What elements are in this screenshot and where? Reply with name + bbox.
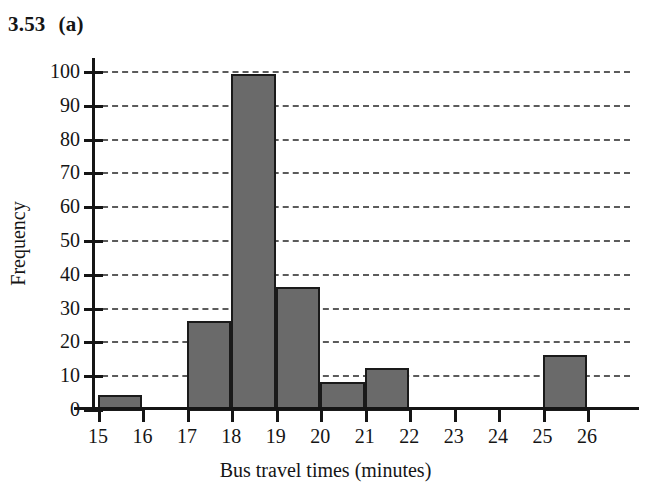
y-axis-tick: [84, 375, 103, 378]
gridline: [92, 240, 630, 242]
y-axis-tick: [84, 308, 103, 311]
histogram-bar: [543, 355, 587, 411]
y-axis-tick: [84, 105, 103, 108]
y-axis-line: [92, 58, 95, 411]
x-axis-tick: [365, 409, 368, 422]
x-axis-tick: [498, 409, 501, 422]
gridline: [92, 139, 630, 141]
gridline: [92, 71, 630, 73]
y-axis-tick-label: 100: [36, 61, 80, 81]
gridline: [92, 105, 630, 107]
x-axis-tick: [187, 409, 190, 422]
gridline: [92, 206, 630, 208]
y-axis-tick-label: 30: [36, 298, 80, 318]
gridline: [92, 274, 630, 276]
y-axis-tick: [84, 71, 103, 74]
histogram-bar: [365, 368, 409, 411]
x-axis-tick: [454, 409, 457, 422]
y-axis-tick: [84, 240, 103, 243]
x-axis-tick: [587, 409, 590, 422]
y-axis-tick-label: 90: [36, 95, 80, 115]
x-axis-tick: [142, 409, 145, 422]
y-axis-tick-label: 0: [36, 399, 80, 419]
gridline: [92, 308, 630, 310]
y-axis-tick-label: 40: [36, 264, 80, 284]
x-axis-tick: [98, 409, 101, 422]
x-axis-tick: [409, 409, 412, 422]
y-axis-tick: [84, 341, 103, 344]
x-axis-tick: [320, 409, 323, 422]
y-axis-tick-label: 20: [36, 331, 80, 351]
gridline: [92, 172, 630, 174]
x-axis-tick-label: 26: [557, 426, 617, 446]
y-axis-tick: [84, 139, 103, 142]
y-axis-tick-label: 70: [36, 162, 80, 182]
plot-area: 0102030405060708090100 15161718192021222…: [0, 0, 651, 492]
y-axis-tick: [84, 172, 103, 175]
x-axis-line: [74, 407, 639, 410]
x-axis-tick: [231, 409, 234, 422]
histogram-bar: [187, 321, 231, 411]
y-axis-tick: [84, 274, 103, 277]
y-axis-tick-label: 50: [36, 230, 80, 250]
y-axis-tick-label: 80: [36, 129, 80, 149]
histogram-bar: [276, 287, 320, 411]
y-axis-tick-label: 60: [36, 196, 80, 216]
histogram-bar: [231, 74, 275, 411]
y-axis-tick-label: 10: [36, 365, 80, 385]
x-axis-title: Bus travel times (minutes): [0, 459, 651, 482]
x-axis-tick: [543, 409, 546, 422]
histogram-figure: 3.53(a) 0102030405060708090100 151617181…: [0, 0, 651, 492]
y-axis-title: Frequency: [7, 164, 30, 324]
gridline: [92, 341, 630, 343]
x-axis-tick: [276, 409, 279, 422]
y-axis-tick: [84, 206, 103, 209]
